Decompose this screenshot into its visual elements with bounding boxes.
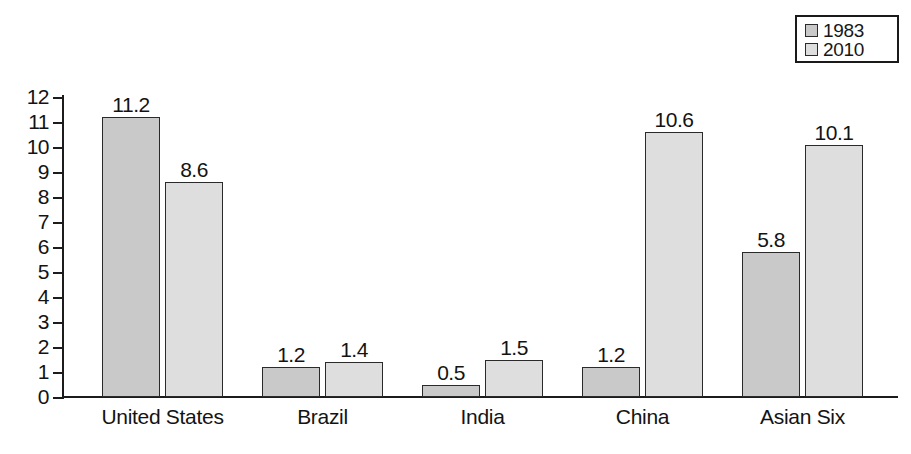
y-tick-mark [53,147,62,149]
bar-group: 1.210.6China [582,97,703,397]
y-tick-mark [53,372,62,374]
legend-item-1983: 1983 [805,21,897,40]
legend-label-2010: 2010 [823,40,864,59]
category-label: India [460,406,504,427]
y-tick-mark [53,222,62,224]
y-tick-label: 9 [38,161,49,182]
bar-2010: 8.6 [165,182,223,397]
y-tick-label: 0 [38,386,49,407]
bar-2010: 1.4 [325,362,383,397]
y-tick-label: 7 [38,211,49,232]
y-tick-mark [53,122,62,124]
y-tick-label: 3 [38,311,49,332]
bar-2010: 10.6 [645,132,703,397]
legend-swatch-1983 [805,24,818,37]
legend-item-2010: 2010 [805,40,897,59]
bar-value-label: 0.5 [437,362,465,383]
bar-value-label: 10.6 [655,109,694,130]
plot-area: 121110987654321011.28.6United States1.21… [62,97,898,397]
y-tick-label: 12 [27,86,49,107]
bar-value-label: 8.6 [180,159,208,180]
y-tick-label: 10 [27,136,49,157]
category-label: United States [101,406,223,427]
y-tick-mark [53,197,62,199]
y-tick-mark [53,97,62,99]
bar-1983: 0.5 [422,385,480,398]
bar-2010: 1.5 [485,360,543,398]
legend-label-1983: 1983 [823,21,864,40]
y-tick-label: 11 [28,111,49,132]
y-tick-label: 5 [38,261,49,282]
y-tick-label: 2 [38,336,49,357]
bar-value-label: 1.2 [277,344,305,365]
bar-value-label: 5.8 [757,229,785,250]
y-tick-label: 8 [38,186,49,207]
y-tick-mark [53,322,62,324]
bar-group: 11.28.6United States [102,97,223,397]
bar-1983: 5.8 [742,252,800,397]
bar-1983: 11.2 [102,117,160,397]
bar-1983: 1.2 [582,367,640,397]
bar-value-label: 1.2 [597,344,625,365]
category-label: Asian Six [760,406,845,427]
bar-2010: 10.1 [805,145,863,398]
y-tick-mark [53,172,62,174]
category-label: Brazil [297,406,348,427]
bar-value-label: 1.4 [340,339,368,360]
y-tick-label: 4 [38,286,49,307]
bar-group: 1.21.4Brazil [262,97,383,397]
bar-1983: 1.2 [262,367,320,397]
bar-group: 0.51.5India [422,97,543,397]
chart-legend: 1983 2010 [795,15,899,63]
y-tick-mark [53,247,62,249]
y-tick-label: 1 [38,361,49,382]
y-tick-mark [53,272,62,274]
y-tick-label: 6 [38,236,49,257]
y-tick-mark [53,347,62,349]
y-tick-mark [53,397,62,399]
bar-value-label: 1.5 [500,337,528,358]
y-tick-mark [53,297,62,299]
bar-chart-figure: 1983 2010 121110987654321011.28.6United … [0,0,911,454]
legend-swatch-2010 [805,43,818,56]
category-label: China [616,406,669,427]
bar-value-label: 11.2 [112,94,149,115]
bar-group: 5.810.1Asian Six [742,97,863,397]
bar-value-label: 10.1 [815,122,854,143]
